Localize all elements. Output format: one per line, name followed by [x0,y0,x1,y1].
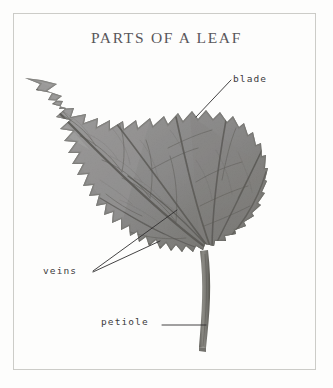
leaf-illustration [0,0,333,388]
label-petiole: petiole [101,316,149,327]
leader-blade [196,80,231,117]
label-blade: blade [233,73,267,84]
leader-veins-2 [93,241,160,272]
leaf-petiole [199,250,210,352]
label-veins: veins [43,265,77,276]
leaf-blade [0,60,333,295]
figure-canvas: PARTS OF A LEAF [0,0,333,388]
